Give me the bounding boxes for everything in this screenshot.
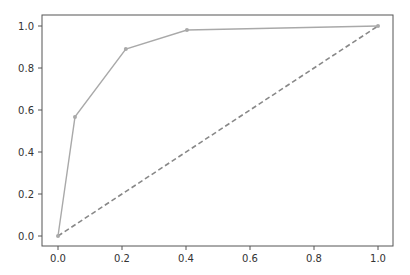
y-tick-label: 0.8 <box>18 63 34 74</box>
y-axis: 0.00.20.40.60.81.0 <box>18 21 42 242</box>
y-tick-label: 0.6 <box>18 105 34 116</box>
roc-chart: 0.00.20.40.60.81.0 0.00.20.40.60.81.0 <box>0 0 410 275</box>
plot-series <box>56 24 380 238</box>
diagonal-line <box>58 26 378 236</box>
x-tick-label: 0.0 <box>50 253 66 264</box>
y-tick-label: 0.2 <box>18 189 34 200</box>
x-tick-label: 0.4 <box>178 253 194 264</box>
x-tick-label: 0.8 <box>306 253 322 264</box>
data-point-marker <box>56 234 60 238</box>
data-point-marker <box>376 24 380 28</box>
x-axis: 0.00.20.40.60.81.0 <box>50 246 386 264</box>
y-tick-label: 0.0 <box>18 231 34 242</box>
data-point-marker <box>185 28 189 32</box>
data-point-marker <box>73 115 77 119</box>
x-tick-label: 0.6 <box>242 253 258 264</box>
data-point-marker <box>124 47 128 51</box>
x-tick-label: 1.0 <box>370 253 386 264</box>
x-tick-label: 0.2 <box>114 253 130 264</box>
y-tick-label: 0.4 <box>18 147 34 158</box>
y-tick-label: 1.0 <box>18 21 34 32</box>
